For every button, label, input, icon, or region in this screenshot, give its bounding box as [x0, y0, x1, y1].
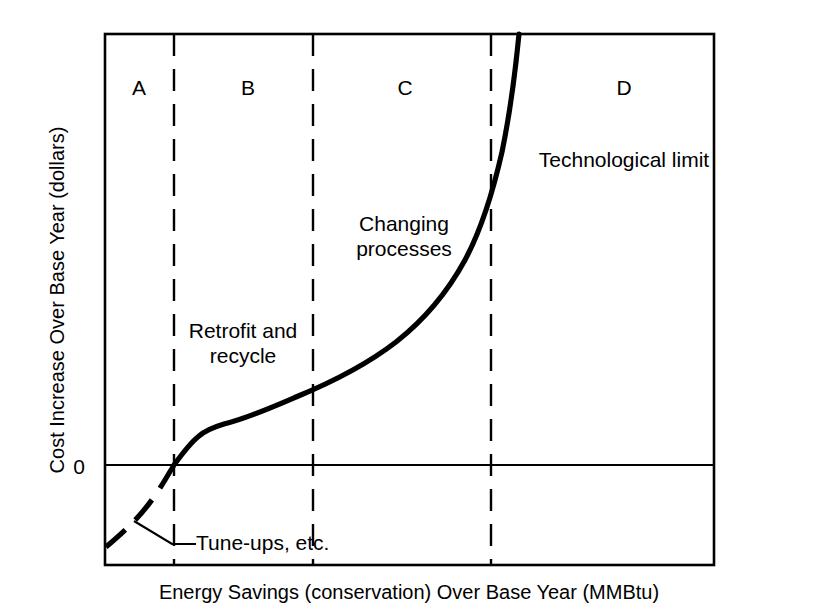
annotation-changing-line2: processes: [356, 237, 452, 262]
annotation-retrofit-line2: recycle: [210, 344, 277, 369]
region-label-d: D: [616, 76, 631, 101]
annotation-changing-line1: Changing: [359, 212, 449, 237]
annotation-tuneups: Tune-ups, etc.: [196, 531, 329, 556]
chart-figure: A B C D 0 Retrofit and recycle Changing …: [0, 0, 838, 612]
annotation-technological-limit: Technological limit: [539, 148, 709, 173]
region-label-a: A: [132, 76, 146, 101]
region-label-b: B: [241, 76, 255, 101]
region-label-c: C: [397, 76, 412, 101]
chart-plot-area: [0, 0, 838, 612]
y-axis-zero-label: 0: [73, 455, 85, 480]
x-axis-title: Energy Savings (conservation) Over Base …: [159, 581, 659, 605]
y-axis-title: Cost Increase Over Base Year (dollars): [46, 127, 70, 474]
annotation-retrofit-line1: Retrofit and: [189, 319, 298, 344]
plot-frame: [105, 34, 714, 565]
